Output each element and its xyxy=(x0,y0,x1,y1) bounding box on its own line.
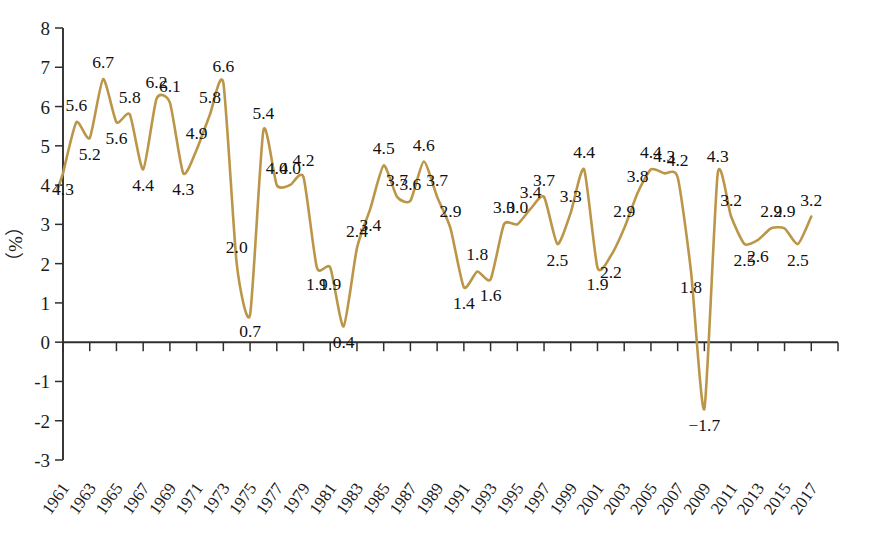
y-tick-label: 7 xyxy=(41,57,51,78)
x-tick-label: 1995 xyxy=(493,479,528,518)
data-point-label: 2.2 xyxy=(600,262,622,282)
data-point-label: 4.2 xyxy=(667,150,689,170)
series-line xyxy=(57,79,811,410)
x-tick-label: 2005 xyxy=(626,479,661,518)
data-point-label: 5.6 xyxy=(65,95,87,115)
data-point-label: 4.3 xyxy=(52,179,74,199)
y-tick-label: -1 xyxy=(34,371,50,392)
x-tick-label: 2003 xyxy=(599,479,634,518)
data-point-label: 1.8 xyxy=(680,277,702,297)
data-point-label: 4.3 xyxy=(707,146,729,166)
x-tick-label: 2009 xyxy=(680,479,715,518)
data-point-label: 4.4 xyxy=(573,142,595,162)
data-point-label: 4.5 xyxy=(373,138,395,158)
data-point-label: 4.3 xyxy=(172,179,194,199)
data-point-label: −1.7 xyxy=(689,415,721,435)
x-tick-label: 2007 xyxy=(653,479,688,518)
data-point-label: 6.7 xyxy=(92,52,114,72)
data-point-label: 1.9 xyxy=(319,274,341,294)
x-tick-label: 1997 xyxy=(519,479,554,518)
data-point-label: 2.6 xyxy=(747,246,769,266)
y-tick-label: 1 xyxy=(41,293,51,314)
y-axis-title: （%） xyxy=(5,217,26,271)
y-tick-label: 0 xyxy=(41,332,51,353)
data-point-label: 5.2 xyxy=(79,144,101,164)
data-point-label: 4.6 xyxy=(413,135,435,155)
x-tick-label: 1971 xyxy=(172,479,207,518)
data-point-label: 2.5 xyxy=(546,250,568,270)
x-tick-label: 1989 xyxy=(412,479,447,518)
data-point-label: 3.2 xyxy=(800,190,822,210)
x-tick-label: 1985 xyxy=(359,479,394,518)
x-tick-label: 1993 xyxy=(466,479,501,518)
y-tick-label: -3 xyxy=(34,450,50,471)
y-tick-label: 8 xyxy=(41,18,51,39)
x-tick-label: 1967 xyxy=(118,479,153,518)
chart-canvas: 876543210-1-2-3（%）1961196319651967196919… xyxy=(0,0,880,542)
x-tick-label: 1969 xyxy=(145,479,180,518)
y-tick-label: -2 xyxy=(34,411,50,432)
x-tick-label: 1961 xyxy=(38,479,73,518)
data-point-label: 1.8 xyxy=(466,244,488,264)
y-tick-label: 2 xyxy=(41,254,51,275)
x-tick-label: 1973 xyxy=(199,479,234,518)
x-tick-label: 2013 xyxy=(733,479,768,518)
data-point-label: 2.9 xyxy=(774,201,796,221)
data-point-label: 3.2 xyxy=(720,190,742,210)
data-point-label: 2.9 xyxy=(440,201,462,221)
data-point-label: 0.7 xyxy=(239,321,261,341)
data-point-label: 6.6 xyxy=(212,56,234,76)
data-point-label: 2.0 xyxy=(226,237,248,257)
data-point-label: 4.4 xyxy=(132,175,154,195)
data-point-label: 1.6 xyxy=(480,285,502,305)
data-point-label: 5.8 xyxy=(119,87,141,107)
y-tick-label: 6 xyxy=(41,97,51,118)
x-tick-label: 2015 xyxy=(760,479,795,518)
data-point-label: 3.7 xyxy=(426,170,448,190)
data-point-label: 3.7 xyxy=(533,170,555,190)
y-tick-label: 5 xyxy=(41,136,51,157)
x-tick-label: 2011 xyxy=(707,479,742,517)
x-tick-label: 1975 xyxy=(225,479,260,518)
data-point-label: 6.1 xyxy=(159,76,181,96)
data-point-label: 1.4 xyxy=(453,293,475,313)
x-tick-label: 2017 xyxy=(786,479,821,518)
data-point-label: 2.9 xyxy=(613,201,635,221)
data-point-label: 5.4 xyxy=(252,103,274,123)
data-point-label: 2.5 xyxy=(787,250,809,270)
data-point-label: 3.4 xyxy=(359,215,381,235)
x-tick-label: 1965 xyxy=(92,479,127,518)
data-point-label: 4.9 xyxy=(186,123,208,143)
y-tick-label: 3 xyxy=(41,214,51,235)
x-tick-label: 1977 xyxy=(252,479,287,518)
x-tick-label: 1991 xyxy=(439,479,474,518)
data-point-label: 3.6 xyxy=(399,174,421,194)
line-chart: 876543210-1-2-3（%）1961196319651967196919… xyxy=(0,0,880,542)
x-tick-label: 1999 xyxy=(546,479,581,518)
x-tick-label: 1979 xyxy=(279,479,314,518)
y-tick-label: 4 xyxy=(41,175,51,196)
x-tick-label: 1983 xyxy=(332,479,367,518)
x-tick-label: 1963 xyxy=(65,479,100,518)
data-point-label: 3.8 xyxy=(627,166,649,186)
data-point-label: 0.4 xyxy=(333,332,355,352)
x-tick-label: 1987 xyxy=(386,479,421,518)
data-point-label: 5.8 xyxy=(199,87,221,107)
data-point-label: 4.2 xyxy=(293,150,315,170)
data-point-label: 3.3 xyxy=(560,186,582,206)
x-tick-label: 1981 xyxy=(305,479,340,518)
data-point-label: 5.6 xyxy=(106,128,128,148)
x-tick-label: 2001 xyxy=(573,479,608,518)
